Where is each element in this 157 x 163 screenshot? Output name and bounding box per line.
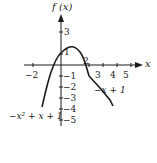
x-tick-neg2: −2	[25, 71, 38, 80]
y-tick-neg4: −4	[63, 105, 76, 114]
x-axis-label: x	[145, 59, 151, 68]
y-tick-neg3: −3	[63, 94, 76, 103]
y-tick-3: 3	[64, 28, 70, 37]
curve-label: −x² + x + 1	[9, 112, 63, 121]
x-tick-2: 2	[83, 57, 89, 66]
piecewise-function-chart	[0, 0, 157, 163]
y-tick-1: 1	[64, 48, 70, 57]
x-axis-arrow-icon	[135, 62, 143, 68]
x-tick-5: 5	[123, 71, 129, 80]
x-tick-3: 3	[95, 71, 101, 80]
y-tick-neg2: −2	[63, 83, 76, 92]
line-label: −x + 1	[94, 86, 126, 95]
y-axis-arrow-icon	[58, 14, 64, 22]
y-axis-label: f (x)	[52, 2, 72, 11]
y-tick-neg5: −5	[63, 116, 76, 125]
x-tick-4: 4	[110, 71, 116, 80]
y-tick-neg1: −1	[63, 72, 76, 81]
